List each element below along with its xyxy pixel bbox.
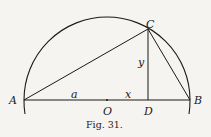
label-B: B [193,94,202,107]
label-C: C [146,18,155,31]
figure-caption: Fig. 31. [86,119,123,130]
label-x: x [125,88,132,101]
semicircle-diagram: A B C D O a x y Fig. 31. [0,0,211,137]
label-a: a [71,88,78,101]
label-O: O [103,105,112,118]
label-D: D [143,105,153,118]
center-point-O [106,99,108,101]
label-A: A [8,94,17,107]
label-y: y [137,56,145,69]
chord-CB [148,29,190,100]
